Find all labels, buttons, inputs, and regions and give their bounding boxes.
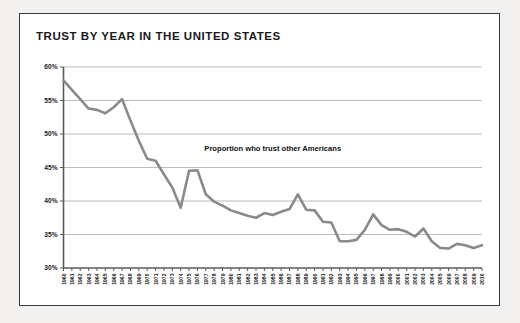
x-tick-label: 1962 xyxy=(77,273,83,284)
x-tick-label: 1998 xyxy=(379,273,385,284)
x-tick-label: 1989 xyxy=(303,273,309,284)
x-tick-label: 1971 xyxy=(153,273,159,284)
x-tick-label: 2009 xyxy=(471,273,477,284)
chart-annotation: Proportion who trust other Americans xyxy=(204,144,341,153)
x-tick-label: 1974 xyxy=(178,273,184,284)
x-tick-label: 1988 xyxy=(295,273,301,284)
x-tick-label: 1968 xyxy=(127,273,133,284)
x-axis-ticks-group: 1960196119621963196419651966196719681969… xyxy=(61,268,486,285)
x-tick-label: 2007 xyxy=(454,273,460,284)
x-tick-label: 2002 xyxy=(412,273,418,284)
y-tick-label: 35% xyxy=(44,231,57,238)
plot-area: 30%35%40%45%50%55%60% 196019611962196319… xyxy=(20,14,501,307)
x-tick-label: 2006 xyxy=(446,273,452,284)
x-tick-label: 1997 xyxy=(370,273,376,284)
x-tick-label: 2004 xyxy=(429,273,435,284)
y-tick-label: 40% xyxy=(44,197,57,204)
x-tick-label: 2008 xyxy=(462,273,468,284)
x-tick-label: 1995 xyxy=(353,273,359,284)
x-tick-label: 1978 xyxy=(211,273,217,284)
y-tick-label: 60% xyxy=(44,63,57,70)
x-tick-label: 1966 xyxy=(111,273,117,284)
x-tick-label: 1973 xyxy=(169,273,175,284)
x-tick-label: 1965 xyxy=(102,273,108,284)
x-tick-label: 1961 xyxy=(69,273,75,284)
x-tick-label: 1969 xyxy=(136,273,142,284)
x-tick-label: 1976 xyxy=(194,273,200,284)
x-tick-label: 1975 xyxy=(186,273,192,284)
x-tick-label: 1979 xyxy=(220,273,226,284)
x-tick-label: 1993 xyxy=(337,273,343,284)
x-tick-label: 1994 xyxy=(345,273,351,284)
x-tick-label: 2000 xyxy=(395,273,401,284)
y-axis-ticks-group: 30%35%40%45%50%55%60% xyxy=(44,63,63,271)
y-tick-label: 45% xyxy=(44,164,57,171)
x-tick-label: 1984 xyxy=(261,273,267,284)
chart-figure: TRUST BY YEAR IN THE UNITED STATES 30%35… xyxy=(19,13,500,306)
x-tick-label: 1980 xyxy=(228,273,234,284)
x-tick-label: 1986 xyxy=(278,273,284,284)
x-tick-label: 1960 xyxy=(61,273,67,284)
x-tick-label: 1970 xyxy=(144,273,150,284)
x-tick-label: 1991 xyxy=(320,273,326,284)
line-chart-svg: 30%35%40%45%50%55%60% 196019611962196319… xyxy=(20,14,501,307)
x-tick-label: 1972 xyxy=(161,273,167,284)
x-tick-label: 1981 xyxy=(236,273,242,284)
x-tick-label: 1990 xyxy=(312,273,318,284)
x-tick-label: 1977 xyxy=(203,273,209,284)
annotations-group: Proportion who trust other Americans xyxy=(204,144,341,153)
trust-series-line xyxy=(64,80,483,248)
x-tick-label: 1987 xyxy=(286,273,292,284)
x-tick-label: 2005 xyxy=(437,273,443,284)
x-tick-label: 1982 xyxy=(245,273,251,284)
x-tick-label: 1996 xyxy=(362,273,368,284)
x-tick-label: 2003 xyxy=(420,273,426,284)
x-tick-label: 1985 xyxy=(270,273,276,284)
y-tick-label: 30% xyxy=(44,264,57,271)
y-tick-label: 55% xyxy=(44,97,57,104)
x-tick-label: 1992 xyxy=(328,273,334,284)
x-tick-label: 1983 xyxy=(253,273,259,284)
x-tick-label: 1967 xyxy=(119,273,125,284)
x-tick-label: 1964 xyxy=(94,273,100,284)
x-tick-label: 1999 xyxy=(387,273,393,284)
x-tick-label: 2010 xyxy=(479,273,485,284)
x-tick-label: 1963 xyxy=(86,273,92,284)
x-tick-label: 2001 xyxy=(404,273,410,284)
y-tick-label: 50% xyxy=(44,130,57,137)
